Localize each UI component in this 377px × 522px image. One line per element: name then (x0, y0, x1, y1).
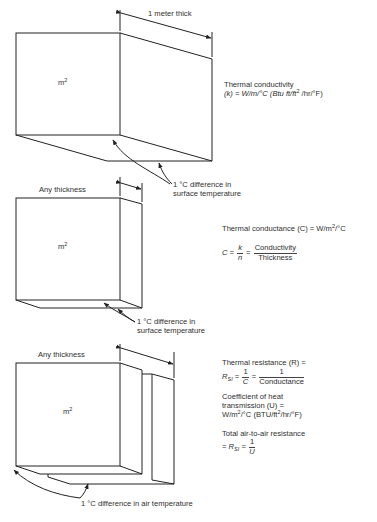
fraction-1-over-u: 1U (249, 438, 255, 456)
coef-suffix: /hr/°F) (281, 410, 302, 419)
resistance-title: Thermal resistance (R) = (222, 358, 306, 367)
dimension-arrow (121, 348, 173, 364)
units-suffix: /hr/°F) (300, 89, 323, 98)
resistance-definition: Thermal resistance (R) = RSI = 1C = 1Con… (222, 358, 306, 456)
callout-label: 1 °C difference in surface temperature (173, 180, 241, 199)
area-label-sup: 2 (64, 77, 67, 83)
area-label: m2 (63, 407, 72, 416)
formula-lhs-sub: SI (234, 446, 239, 452)
callout-label: 1 °C difference in surface temperature (137, 317, 205, 336)
fraction-denominator: Thickness (254, 254, 297, 263)
fraction-1-over-conductance: 1Conductance (259, 368, 304, 386)
dimension-arrow (121, 183, 141, 189)
equals-sign: = (252, 373, 256, 382)
equals-sign: = (241, 442, 245, 451)
coef-mid: /°C (BTU/ft (241, 410, 278, 419)
block-side-face (16, 198, 142, 308)
block-layered-wall (14, 344, 174, 498)
callout-line-2: surface temperature (137, 326, 205, 335)
dimension-label: 1 meter thick (148, 9, 191, 18)
conductivity-definition: Thermal conductivity (k) = W/m/°C (Btu f… (224, 80, 323, 99)
coef-units: W/m (222, 410, 238, 419)
resistance-formula: RSI = 1C = 1Conductance (222, 368, 306, 386)
units-text: (k) = W/m/°C (Btu ft/ft (224, 89, 296, 98)
callout-arrow (80, 484, 88, 498)
conductance-title: Thermal conductance (C) = W/m (222, 224, 332, 233)
equals-sign: = (222, 442, 226, 451)
conductance-suffix: /°C (335, 224, 346, 233)
block-front-face (16, 33, 120, 135)
callout-line-1: 1 °C difference in (137, 317, 205, 326)
equals-sign: = (246, 248, 250, 257)
area-label-sup: 2 (64, 241, 67, 247)
slab-1-side (16, 363, 142, 474)
coefficient-line-1: Coefficient of heat (222, 392, 306, 401)
callout-label: 1 °C difference in air temperature (81, 499, 193, 508)
dimension-label: Any thickness (38, 350, 85, 359)
area-label: m2 (58, 242, 67, 251)
formula-lhs-sub: SI (227, 377, 232, 383)
conductivity-units: (k) = W/m/°C (Btu ft/ft2 /hr/°F) (224, 89, 323, 98)
conductivity-title: Thermal conductivity (224, 80, 323, 89)
callout-line-1: 1 °C difference in (173, 180, 241, 189)
area-label-sup: 2 (69, 406, 72, 412)
block-1m-thick (16, 10, 212, 184)
fraction-denominator: U (249, 448, 255, 457)
total-formula: = RSI = 1U (222, 438, 306, 456)
slab-2-side (48, 374, 174, 484)
coefficient-line-2: transmission (U) = (222, 401, 306, 410)
callout-arrow (118, 309, 135, 322)
block-front-face (16, 198, 120, 300)
total-title: Total air-to-air resistance (222, 429, 306, 438)
callout-line-2: surface temperature (173, 189, 241, 198)
fraction-k-over-n: kn (237, 244, 243, 262)
block-any-thickness (16, 177, 142, 322)
total-resistance-block: Total air-to-air resistance = RSI = 1U (222, 429, 306, 457)
fraction-denominator: C (242, 378, 248, 387)
conductance-definition: Thermal conductance (C) = W/m2/°C (222, 224, 346, 233)
fraction-denominator: n (237, 254, 243, 263)
coefficient-block: Coefficient of heat transmission (U) = W… (222, 392, 306, 420)
fraction-denominator: Conductance (259, 378, 304, 387)
equals-sign: = (235, 373, 239, 382)
fraction-1-over-c: 1C (242, 368, 248, 386)
diagram-drawing (0, 0, 377, 522)
dimension-label: Any thickness (39, 185, 86, 194)
coefficient-line-3: W/m2/°C (BTU/ft2/hr/°F) (222, 410, 306, 419)
conductance-formula: C = kn = ConductivityThickness (222, 244, 298, 262)
formula-lhs: C = (222, 248, 234, 257)
gap-edge (142, 374, 152, 480)
fraction-conductivity-over-thickness: ConductivityThickness (254, 244, 297, 262)
area-label: m2 (58, 78, 67, 87)
